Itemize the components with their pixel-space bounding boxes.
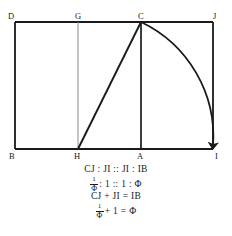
equation-text-3: CJ + JI = IB xyxy=(91,191,141,201)
arc-C-to-I xyxy=(141,22,213,146)
equation-line-3: CJ + JI = IB xyxy=(0,190,232,204)
vertex-label-C: C xyxy=(138,11,144,21)
vertex-label-B: B xyxy=(9,151,15,161)
equation-line-4: 1 Φ + 1 = Φ xyxy=(0,204,232,218)
vertex-label-A: A xyxy=(137,151,144,161)
diagonal-line-HC xyxy=(78,22,141,149)
vertex-label-G: G xyxy=(75,11,81,21)
vertex-label-D: D xyxy=(8,11,14,21)
golden-ratio-figure: D G C J B H A I CJ : JI :: JI : IB 1 Φ :… xyxy=(0,0,232,236)
vertex-label-J: J xyxy=(213,11,217,21)
equation-line-1: CJ : JI :: JI : IB xyxy=(0,163,232,177)
equation-text-1: CJ : JI :: JI : IB xyxy=(84,164,147,174)
vertex-label-H: H xyxy=(74,151,80,161)
fraction-denominator: Φ xyxy=(90,185,98,194)
vertex-label-I: I xyxy=(215,151,218,161)
fraction-one-over-phi: 1 Φ xyxy=(90,176,98,193)
equation-text-4: + 1 = Φ xyxy=(105,205,137,219)
equation-block: CJ : JI :: JI : IB 1 Φ : 1 :: 1 : Φ CJ +… xyxy=(0,163,232,217)
fraction-denominator: Φ xyxy=(96,212,104,221)
equation-line-2: 1 Φ : 1 :: 1 : Φ xyxy=(0,177,232,191)
fraction-one-over-phi-2: 1 Φ xyxy=(96,203,104,220)
